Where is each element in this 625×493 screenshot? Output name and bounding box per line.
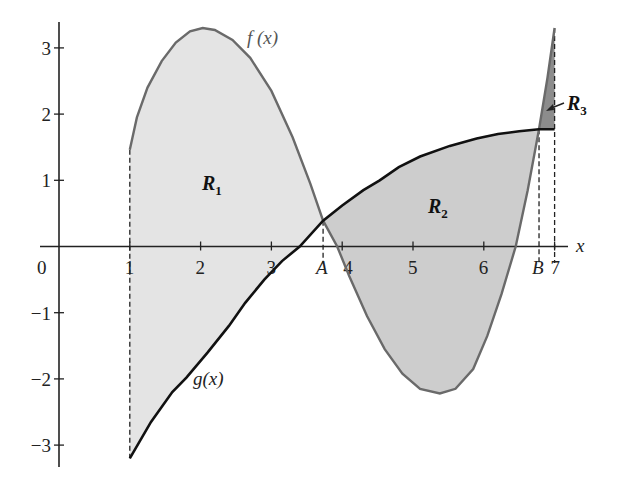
x-tick-label: 0 bbox=[37, 257, 47, 278]
y-tick-label: −1 bbox=[31, 303, 51, 324]
region-r2-subscript: 2 bbox=[441, 206, 448, 221]
y-tick-label: 1 bbox=[42, 170, 52, 191]
x-tick-label: A bbox=[314, 257, 328, 278]
y-tick-label: −2 bbox=[31, 369, 51, 390]
region-r2-fill bbox=[323, 129, 539, 393]
x-tick-label: 7 bbox=[551, 257, 561, 278]
x-tick-label: B bbox=[532, 257, 544, 278]
g-curve-label: g(x) bbox=[193, 368, 224, 390]
region-r2-letter: R bbox=[427, 195, 441, 217]
y-tick-label: −3 bbox=[31, 435, 51, 456]
x-tick-label: 1 bbox=[125, 257, 135, 278]
region-r1-subscript: 1 bbox=[215, 183, 222, 198]
x-axis-label: x bbox=[575, 235, 585, 256]
region-r3-subscript: 3 bbox=[580, 103, 587, 118]
y-tick-label: 2 bbox=[42, 104, 52, 125]
region-r1-letter: R bbox=[201, 172, 215, 194]
x-tick-label: 2 bbox=[196, 257, 206, 278]
x-tick-label: 5 bbox=[408, 257, 418, 278]
region-r1-fill bbox=[130, 28, 323, 458]
f-curve-label: f (x) bbox=[247, 27, 278, 49]
x-tick-label: 6 bbox=[479, 257, 489, 278]
region-r3-label: R3 bbox=[566, 92, 587, 118]
area-between-curves-figure: 0123A456B7 321−1−2−3 x f (x) g(x) R1 R2 … bbox=[0, 0, 625, 493]
y-tick-label: 3 bbox=[42, 38, 52, 59]
region-r3-letter: R bbox=[566, 92, 580, 114]
